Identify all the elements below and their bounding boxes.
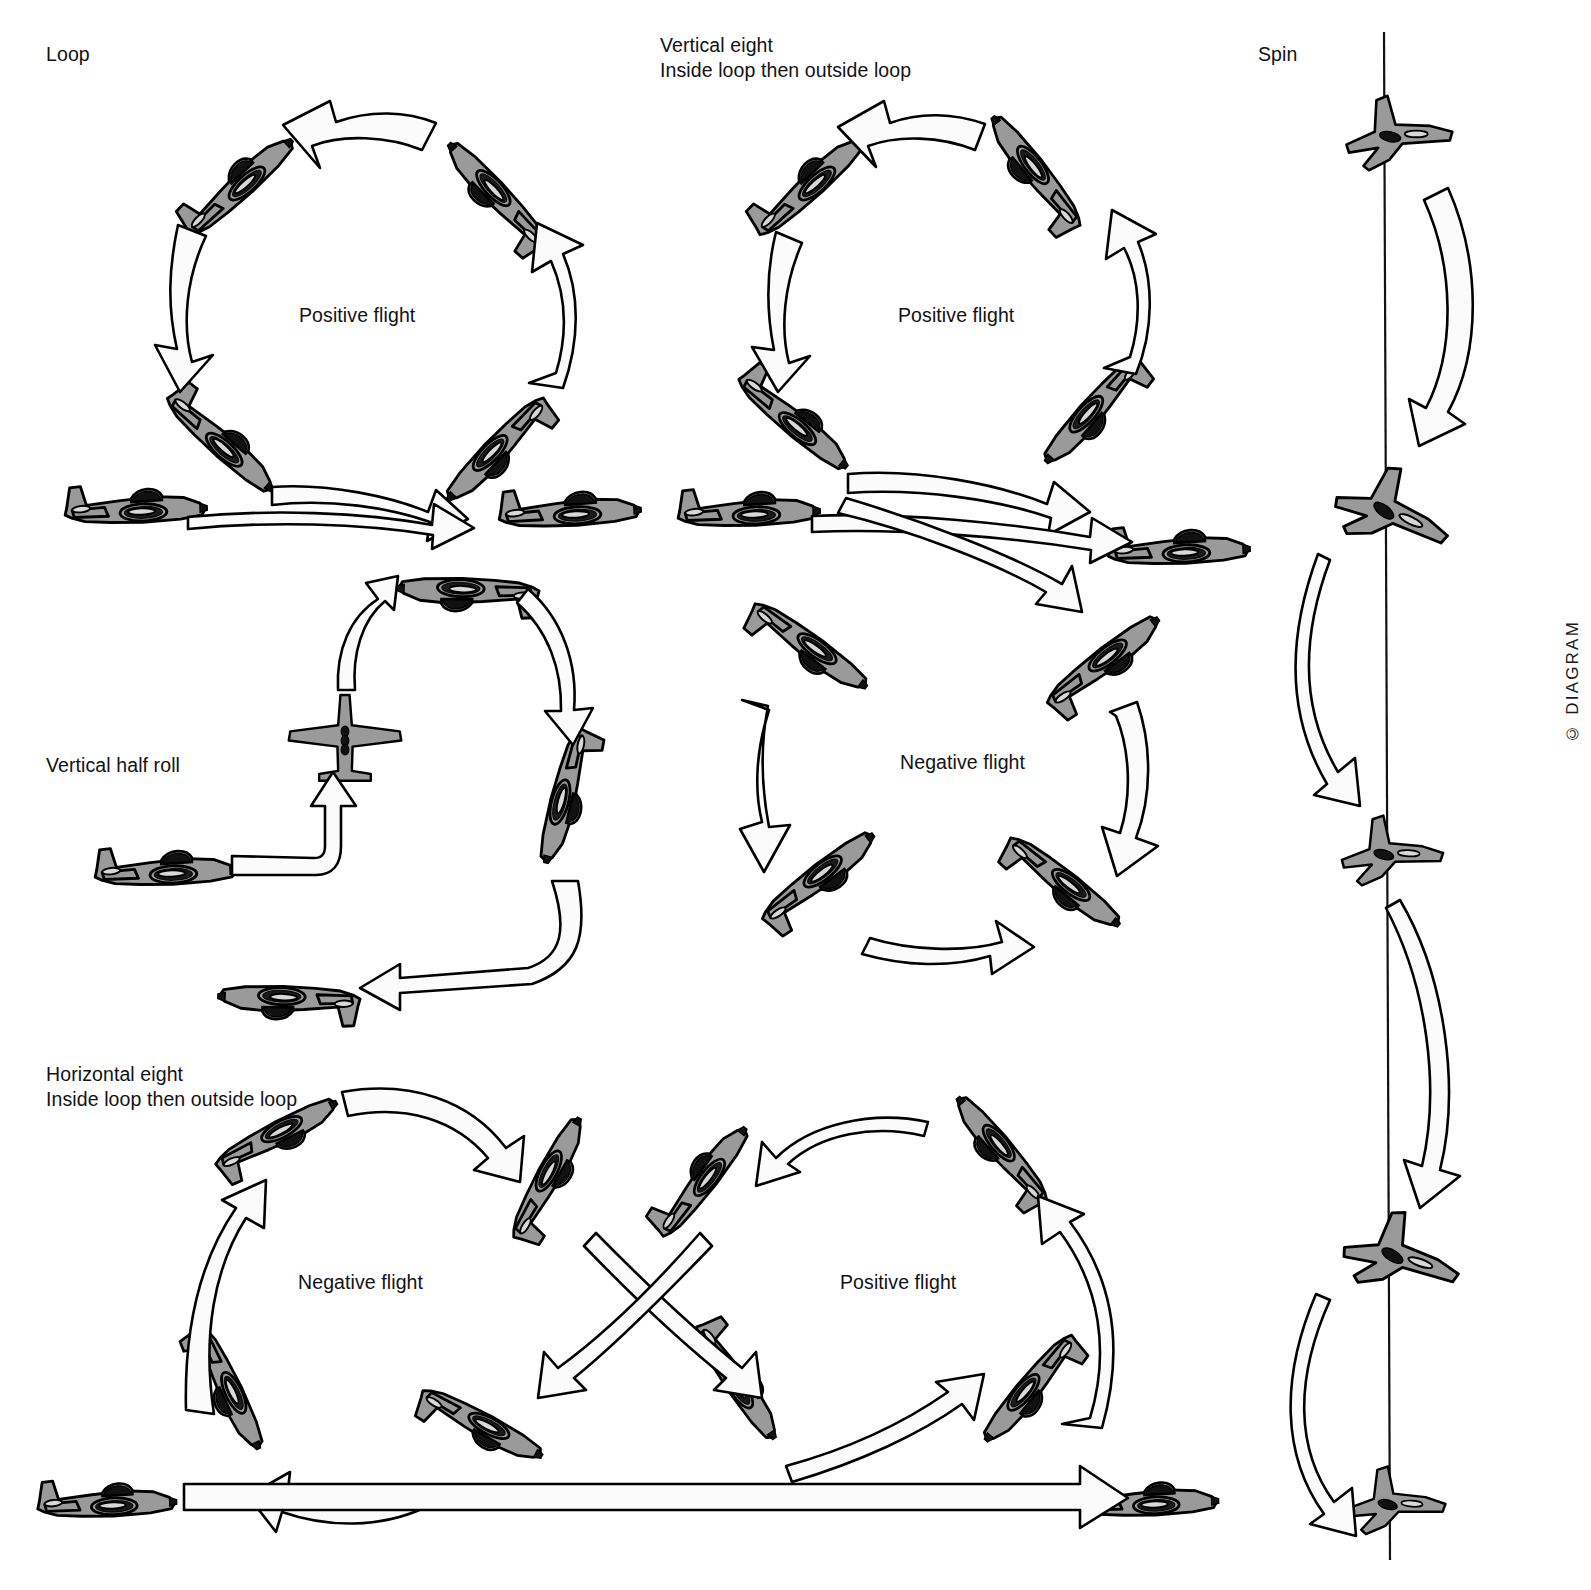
aircraft xyxy=(677,485,820,528)
copyright-notice: © DIAGRAM xyxy=(1563,620,1583,743)
arrow xyxy=(1291,1294,1356,1536)
aircraft xyxy=(1340,813,1445,887)
aircraft xyxy=(1337,1200,1470,1305)
arrow xyxy=(1038,1196,1113,1428)
section-title-horizontal-eight-line1: Horizontal eight xyxy=(46,1062,183,1087)
arrow xyxy=(529,223,583,388)
aircraft xyxy=(1037,351,1158,479)
arrow xyxy=(338,576,398,690)
aircraft xyxy=(172,121,300,242)
aircraft xyxy=(396,576,539,619)
aircraft xyxy=(994,830,1126,945)
aircraft xyxy=(939,1090,1054,1217)
aircraft xyxy=(498,484,642,529)
horizontal-eight-figure xyxy=(37,1089,1219,1532)
aircraft xyxy=(289,695,401,781)
loop-inner-label: Positive flight xyxy=(299,303,415,328)
horizontal-eight-right-label: Positive flight xyxy=(840,1270,956,1295)
vertical-half-roll-figure xyxy=(94,576,606,1027)
diagram-canvas: Loop Positive flight Vertical half roll … xyxy=(0,0,1591,1590)
aircraft xyxy=(64,482,207,525)
aircraft xyxy=(410,1382,547,1478)
arrow xyxy=(342,1089,524,1182)
aircraft xyxy=(739,596,873,708)
arrow xyxy=(786,1374,984,1482)
section-title-vertical-half-roll: Vertical half roll xyxy=(46,753,180,778)
aircraft xyxy=(1345,1465,1446,1535)
vertical-eight-figure xyxy=(677,101,1250,974)
arrow xyxy=(740,700,790,872)
vertical-eight-lower-arrows xyxy=(740,700,1158,974)
arrow xyxy=(538,1233,712,1398)
section-title-vertical-eight-line1: Vertical eight xyxy=(660,33,773,58)
arrow xyxy=(283,101,436,168)
arrow xyxy=(1102,702,1158,876)
spin-figure xyxy=(1291,32,1473,1560)
arrow xyxy=(862,921,1034,974)
arrow xyxy=(1409,188,1473,446)
section-title-loop: Loop xyxy=(46,42,90,67)
aircraft xyxy=(642,1113,754,1242)
vertical-eight-lower-label: Negative flight xyxy=(900,750,1025,775)
aircraft xyxy=(1342,89,1456,172)
arrow xyxy=(360,881,582,1010)
arrow xyxy=(232,772,356,875)
section-title-horizontal-eight-line2: Inside loop then outside loop xyxy=(46,1087,297,1112)
aircraft xyxy=(733,359,863,477)
spin-axis-line xyxy=(1384,32,1390,1560)
horizontal-eight-right-aircraft xyxy=(642,1090,1219,1517)
arrow xyxy=(838,101,985,167)
aircraft xyxy=(977,1329,1092,1456)
arrow xyxy=(756,1118,928,1186)
arrow xyxy=(155,225,213,392)
arrow xyxy=(1386,900,1460,1208)
half-roll-arrow-group xyxy=(232,576,593,1010)
section-title-spin: Spin xyxy=(1258,42,1297,67)
aircraft xyxy=(217,984,360,1027)
aircraft xyxy=(1326,452,1463,566)
arrow xyxy=(1296,554,1360,806)
vertical-eight-upper-label: Positive flight xyxy=(898,303,1014,328)
aircraft xyxy=(973,110,1088,242)
aircraft xyxy=(94,844,237,887)
aircraft xyxy=(161,378,289,499)
aircraft xyxy=(534,726,606,870)
horizontal-eight-right-arrows xyxy=(184,1118,1128,1528)
arrow xyxy=(1104,210,1156,374)
aerobatics-artwork xyxy=(0,0,1591,1590)
aircraft xyxy=(37,1477,177,1519)
section-title-vertical-eight-line2: Inside loop then outside loop xyxy=(660,58,911,83)
arrow xyxy=(584,1233,762,1398)
aircraft xyxy=(1041,609,1173,724)
horizontal-eight-left-label: Negative flight xyxy=(298,1270,423,1295)
arrow xyxy=(517,589,593,745)
